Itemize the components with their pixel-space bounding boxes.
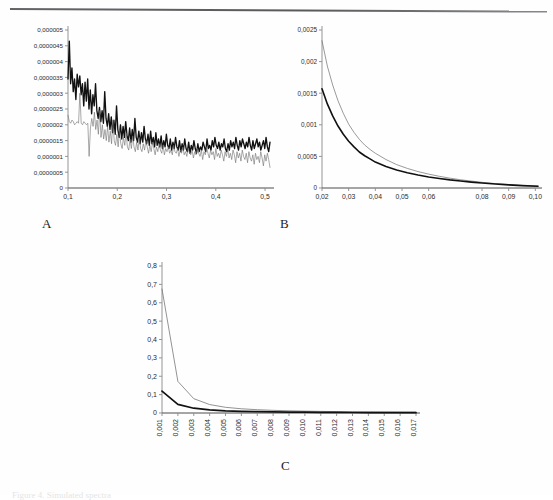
svg-text:0,014: 0,014 [362,419,369,437]
svg-text:0,04: 0,04 [369,193,382,200]
svg-text:0,3: 0,3 [147,354,157,361]
svg-text:0,002: 0,002 [172,419,179,437]
svg-text:0,5: 0,5 [147,318,157,325]
svg-text:0,0000035: 0,0000035 [34,74,64,81]
svg-text:0,0005: 0,0005 [297,153,317,160]
svg-text:0,008: 0,008 [267,419,274,437]
svg-text:0,015: 0,015 [378,419,385,437]
svg-text:0,0015: 0,0015 [297,90,317,97]
svg-text:0,8: 0,8 [147,262,157,269]
svg-text:0,1: 0,1 [147,391,157,398]
chart-c-plot: 00,10,20,30,40,50,60,70,80,0010,0020,003… [126,258,426,463]
svg-text:0,0025: 0,0025 [297,26,317,33]
svg-text:0,010: 0,010 [299,419,306,437]
svg-text:0,005: 0,005 [220,419,227,437]
svg-text:0,2: 0,2 [147,373,157,380]
svg-text:0,013: 0,013 [347,419,354,437]
svg-text:0,4: 0,4 [147,336,157,343]
svg-text:0,0000025: 0,0000025 [34,105,64,112]
svg-text:0,016: 0,016 [394,419,401,437]
svg-text:0,2: 0,2 [113,193,123,200]
svg-text:0,000001: 0,000001 [37,153,63,160]
svg-text:0,05: 0,05 [395,193,408,200]
svg-text:0,5: 0,5 [260,193,270,200]
svg-text:0,001: 0,001 [156,419,163,437]
page-top-rule [10,8,547,13]
chart-panel-c: 00,10,20,30,40,50,60,70,80,0010,0020,003… [126,258,426,463]
panel-letter-b: B [280,216,289,232]
svg-text:0,1: 0,1 [63,193,73,200]
chart-b-plot: 00,00050,0010,00150,0020,00250,020,030,0… [278,22,546,212]
chart-panel-b: 00,00050,0010,00150,0020,00250,020,030,0… [278,22,546,212]
svg-text:0,012: 0,012 [331,419,338,437]
svg-text:0,004: 0,004 [204,419,211,437]
svg-text:0,003: 0,003 [188,419,195,437]
svg-text:0,06: 0,06 [422,193,435,200]
svg-text:0,03: 0,03 [342,193,355,200]
svg-text:0,0000015: 0,0000015 [34,137,64,144]
svg-text:0,02: 0,02 [315,193,328,200]
chart-a-plot: 00,00000050,0000010,00000150,0000020,000… [6,22,276,212]
svg-text:0,007: 0,007 [251,419,258,437]
svg-text:0,006: 0,006 [235,419,242,437]
svg-text:0,000004: 0,000004 [37,58,63,65]
svg-text:0,000003: 0,000003 [37,90,63,97]
svg-text:0,002: 0,002 [301,58,317,65]
svg-text:0,017: 0,017 [410,419,417,437]
svg-text:0,009: 0,009 [283,419,290,437]
svg-text:0,001: 0,001 [301,121,317,128]
svg-text:0: 0 [153,409,157,416]
svg-text:0,000002: 0,000002 [37,121,63,128]
panel-letter-a: A [42,216,52,232]
svg-text:0: 0 [313,184,317,191]
chart-panel-a: 00,00000050,0000010,00000150,0000020,000… [6,22,276,212]
svg-text:0,6: 0,6 [147,299,157,306]
svg-text:0,7: 0,7 [147,281,157,288]
svg-text:0: 0 [60,184,64,191]
svg-text:0,10: 0,10 [529,193,542,200]
svg-text:0,000005: 0,000005 [37,26,63,33]
svg-text:0,3: 0,3 [162,193,172,200]
figure-caption: Figure 4. Simulated spectra [12,490,111,500]
panel-letter-c: C [281,458,290,474]
svg-text:0,08: 0,08 [475,193,488,200]
svg-text:0,011: 0,011 [315,419,322,436]
svg-text:0,0000045: 0,0000045 [34,42,64,49]
svg-text:0,4: 0,4 [211,193,221,200]
svg-text:0,0000005: 0,0000005 [34,169,64,176]
svg-text:0,09: 0,09 [502,193,515,200]
